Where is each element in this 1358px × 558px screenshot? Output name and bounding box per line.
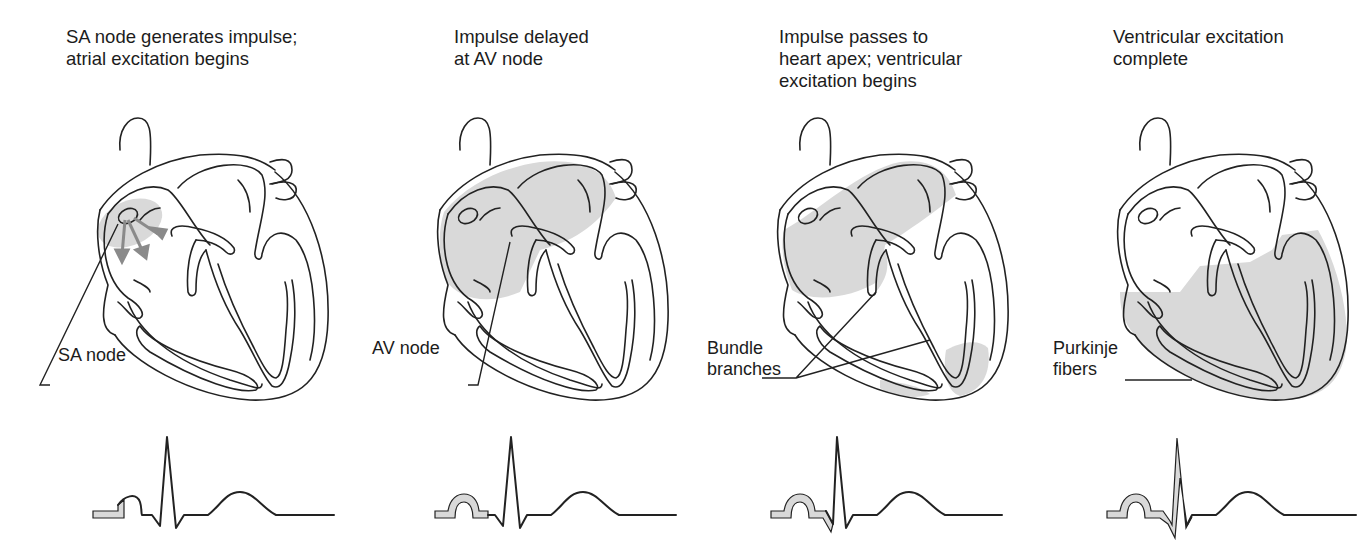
heart-illustration xyxy=(0,110,340,410)
caption-line: excitation begins xyxy=(779,70,962,92)
av-node-label: AV node xyxy=(372,338,440,359)
label-line: Bundle xyxy=(707,338,781,359)
label-line: SA node xyxy=(58,345,126,366)
bundle-branches-label: Bundle branches xyxy=(707,338,781,380)
caption-line: Impulse passes to xyxy=(779,26,962,48)
panel-sa-node: SA node generates impulse; atrial excita… xyxy=(0,0,340,558)
panel-caption: Impulse delayed at AV node xyxy=(454,26,589,70)
ecg-trace xyxy=(680,400,1020,558)
panel-av-node: Impulse delayed at AV node AV node xyxy=(340,0,680,558)
caption-line: atrial excitation begins xyxy=(66,48,297,70)
purkinje-fibers-label: Purkinje fibers xyxy=(1053,338,1118,380)
label-line: fibers xyxy=(1053,359,1118,380)
label-line: branches xyxy=(707,359,781,380)
caption-line: at AV node xyxy=(454,48,589,70)
ecg-trace xyxy=(340,400,680,558)
caption-line: SA node generates impulse; xyxy=(66,26,297,48)
panel-caption: Impulse passes to heart apex; ventricula… xyxy=(779,26,962,92)
caption-line: heart apex; ventricular xyxy=(779,48,962,70)
panel-purkinje-fibers: Ventricular excitation complete Purkinje… xyxy=(1020,0,1358,558)
caption-line: Ventricular excitation xyxy=(1113,26,1284,48)
caption-line: complete xyxy=(1113,48,1284,70)
caption-line: Impulse delayed xyxy=(454,26,589,48)
panel-caption: Ventricular excitation complete xyxy=(1113,26,1284,70)
label-line: AV node xyxy=(372,338,440,359)
panel-caption: SA node generates impulse; atrial excita… xyxy=(66,26,297,70)
sa-node-label: SA node xyxy=(58,345,126,366)
ecg-trace xyxy=(0,400,340,558)
heart-illustration xyxy=(340,110,680,410)
label-line: Purkinje xyxy=(1053,338,1118,359)
panel-bundle-branches: Impulse passes to heart apex; ventricula… xyxy=(680,0,1020,558)
ecg-trace xyxy=(1020,400,1358,558)
